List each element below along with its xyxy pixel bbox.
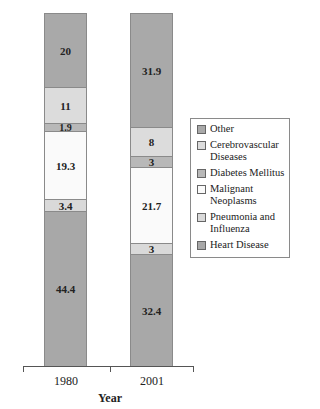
swatch-icon [197,169,206,178]
legend-item: Other [195,123,285,135]
segment-cerebrovascular: 8 [131,127,172,156]
swatch-icon [197,185,206,194]
value-label: 8 [149,136,155,148]
value-label: 19.3 [56,160,75,172]
swatch-icon [197,141,206,150]
value-label: 21.7 [142,200,161,212]
segment-malignant: 21.7 [131,167,172,243]
x-tick [23,366,24,372]
segment-pneumonia: 3 [131,243,172,254]
segment-other: 20 [45,14,86,87]
legend-item: Diabetes Mellitus [195,167,285,179]
x-axis [23,366,194,367]
segment-cerebrovascular: 11 [45,87,86,123]
segment-heart: 44.4 [45,211,86,366]
value-label: 44.4 [56,283,75,295]
legend-label: Malignant Neoplasms [210,183,285,207]
segment-diabetes: 1.9 [45,123,86,131]
segment-other: 31.9 [131,14,172,127]
legend-item: Heart Disease [195,239,285,251]
segment-diabetes: 3 [131,156,172,167]
value-label: 11 [60,100,70,112]
bar-1980: 20 11 1.9 19.3 3.4 44.4 [44,13,87,367]
x-tick-label: 2001 [122,374,182,389]
bar-2001: 31.9 8 3 21.7 3 32.4 [130,13,173,367]
value-label: 3.4 [59,200,73,212]
segment-pneumonia: 3.4 [45,199,86,211]
legend-item: Pneumonia and Influenza [195,211,285,235]
value-label: 31.9 [142,65,161,77]
segment-malignant: 19.3 [45,131,86,199]
swatch-icon [197,125,206,134]
legend-label: Other [210,123,234,135]
swatch-icon [197,213,206,222]
legend-label: Diabetes Mellitus [210,167,284,179]
x-tick [193,366,194,372]
legend-item: Cerebrovascular Diseases [195,139,285,163]
legend-item: Malignant Neoplasms [195,183,285,207]
value-label: 20 [60,45,71,57]
legend-label: Heart Disease [210,239,269,251]
x-axis-title: Year [80,391,140,406]
swatch-icon [197,241,206,250]
legend-label: Cerebrovascular Diseases [210,139,285,163]
value-label: 32.4 [142,305,161,317]
segment-heart: 32.4 [131,254,172,366]
legend-label: Pneumonia and Influenza [210,211,285,235]
x-tick [110,366,111,372]
legend: Other Cerebrovascular Diseases Diabetes … [190,118,290,258]
x-tick-label: 1980 [36,374,96,389]
